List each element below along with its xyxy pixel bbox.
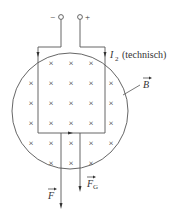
svg-text:×: × bbox=[48, 158, 53, 168]
svg-text:×: × bbox=[108, 118, 113, 128]
current-arrow-bottom bbox=[68, 132, 73, 135]
svg-text:×: × bbox=[88, 58, 93, 68]
force-label: F bbox=[47, 188, 57, 202]
svg-text:F: F bbox=[47, 190, 55, 201]
svg-text:×: × bbox=[68, 58, 73, 68]
svg-text:(technisch): (technisch) bbox=[122, 49, 166, 61]
conductor-loop bbox=[38, 20, 105, 134]
svg-text:×: × bbox=[68, 78, 73, 88]
field-region-circle bbox=[12, 53, 128, 169]
svg-text:×: × bbox=[48, 98, 53, 108]
svg-text:×: × bbox=[48, 78, 53, 88]
svg-text:×: × bbox=[28, 138, 33, 148]
plus-terminal bbox=[78, 15, 83, 20]
svg-text:×: × bbox=[68, 118, 73, 128]
plus-sign: + bbox=[85, 12, 90, 22]
gravity-label: F G bbox=[86, 176, 98, 192]
field-label-pointer bbox=[123, 85, 140, 95]
svg-text:×: × bbox=[88, 158, 93, 168]
gravity-arrowhead bbox=[79, 186, 82, 192]
svg-text:×: × bbox=[28, 118, 33, 128]
svg-text:×: × bbox=[108, 78, 113, 88]
minus-sign: − bbox=[50, 12, 55, 22]
current-arrow-left bbox=[37, 52, 40, 57]
svg-text:×: × bbox=[88, 78, 93, 88]
svg-text:G: G bbox=[93, 183, 98, 191]
svg-text:×: × bbox=[108, 138, 113, 148]
svg-text:×: × bbox=[68, 158, 73, 168]
svg-text:2: 2 bbox=[115, 55, 119, 63]
current-label: I 2 (technisch) bbox=[109, 49, 166, 63]
svg-text:×: × bbox=[88, 118, 93, 128]
minus-terminal bbox=[59, 15, 64, 20]
svg-text:×: × bbox=[68, 138, 73, 148]
svg-text:×: × bbox=[28, 78, 33, 88]
svg-text:×: × bbox=[108, 98, 113, 108]
svg-text:B: B bbox=[143, 79, 149, 90]
svg-text:×: × bbox=[28, 98, 33, 108]
svg-text:×: × bbox=[48, 138, 53, 148]
force-arrowhead bbox=[60, 203, 63, 209]
svg-text:×: × bbox=[88, 98, 93, 108]
field-label: B bbox=[143, 77, 152, 91]
svg-text:×: × bbox=[48, 58, 53, 68]
field-crosses: × × × × × × × × × × × × × × × × × × × × … bbox=[28, 58, 113, 168]
current-balance-diagram: − + × × × × × × × × × × × × × × × × × × … bbox=[0, 0, 179, 213]
svg-text:×: × bbox=[88, 138, 93, 148]
svg-text:×: × bbox=[48, 118, 53, 128]
svg-text:×: × bbox=[68, 98, 73, 108]
current-arrow-right bbox=[104, 52, 107, 57]
diagram-canvas: − + × × × × × × × × × × × × × × × × × × … bbox=[0, 0, 179, 213]
svg-text:I: I bbox=[109, 49, 114, 60]
